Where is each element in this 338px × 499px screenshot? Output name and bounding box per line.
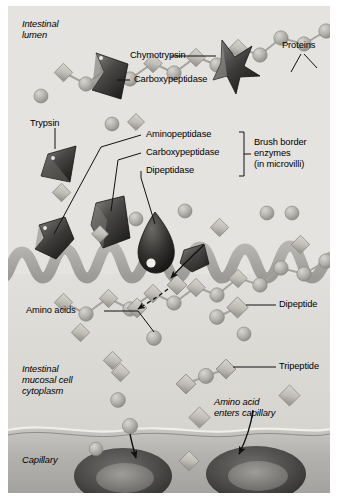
capillary-bead <box>89 442 103 456</box>
cytoplasm-bead <box>111 393 126 408</box>
label-trypsin: Trypsin <box>30 118 59 129</box>
bracket-label-line2: enzymes <box>254 148 291 159</box>
free-bead <box>285 206 299 220</box>
free-amino-acid-lumen <box>34 89 48 103</box>
label-tripeptide: Tripeptide <box>279 361 319 372</box>
bracket-label-line1: Brush border <box>254 137 307 148</box>
label-dipeptide: Dipeptide <box>279 299 317 310</box>
region-label-capillary: Capillary <box>22 454 58 465</box>
label-chymotrypsin: Chymotrypsin <box>130 50 186 61</box>
label-aminopeptidase: Aminopeptidase <box>146 129 211 140</box>
label-dipeptidase: Dipeptidase <box>146 165 194 176</box>
diagram-canvas: Intestinal lumen Chymotrypsin Carboxypep… <box>8 6 330 493</box>
label-amino-acid-enters-capillary: Amino acid enters capillary <box>214 396 275 418</box>
cytoplasm-bead <box>237 327 251 341</box>
free-bead <box>178 204 192 218</box>
bracket-label-line3: (in microvilli) <box>254 159 304 170</box>
cytoplasm-bead <box>122 418 137 433</box>
label-proteins: Proteins <box>282 40 315 51</box>
free-bead <box>105 117 119 131</box>
region-label-intestinal-lumen: Intestinal lumen <box>22 18 59 40</box>
label-carboxypeptidase-lumen: Carboxypeptidase <box>134 74 207 85</box>
label-amino-acids: Amino acids <box>26 305 76 316</box>
free-bead <box>129 212 143 226</box>
free-bead <box>260 206 274 220</box>
label-carboxypeptidase-brush: Carboxypeptidase <box>146 147 219 158</box>
protein-digestion-figure: Intestinal lumen Chymotrypsin Carboxypep… <box>0 0 338 499</box>
cytoplasm-bead <box>147 331 162 346</box>
region-label-mucosal-cytoplasm: Intestinal mucosal cell cytoplasm <box>22 363 72 396</box>
